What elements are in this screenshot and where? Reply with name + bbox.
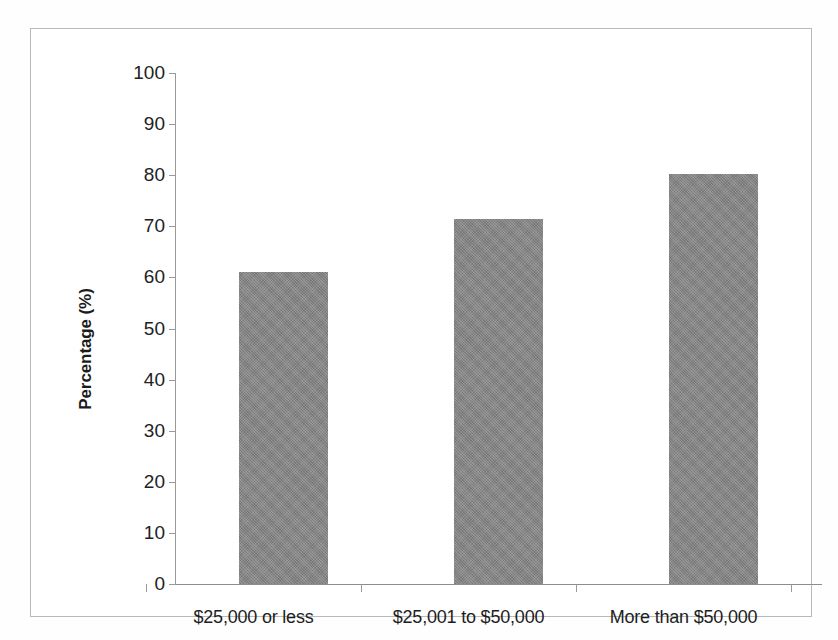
y-axis-tick-label: 60 <box>144 266 165 288</box>
y-axis-tick <box>169 73 176 74</box>
y-axis-tick-label: 90 <box>144 113 165 135</box>
y-axis-tick <box>169 175 176 176</box>
y-axis-tick-label: 10 <box>144 522 165 544</box>
y-axis-tick <box>169 482 176 483</box>
x-axis-category-label: $25,000 or less <box>146 607 361 628</box>
x-axis-line <box>176 584 822 585</box>
y-axis-tick-label: 70 <box>144 215 165 237</box>
y-axis-tick-label: 80 <box>144 164 165 186</box>
y-axis-title-container: Percentage (%) <box>73 209 99 489</box>
bar <box>454 219 543 584</box>
y-axis-title: Percentage (%) <box>73 209 99 489</box>
y-axis-tick <box>169 124 176 125</box>
plot-area: 1009080706050403020100 <box>176 73 821 584</box>
chart-frame: Percentage (%) 1009080706050403020100 $2… <box>30 28 812 617</box>
y-axis-tick <box>169 226 176 227</box>
bar <box>669 174 758 584</box>
y-axis-tick-label: 0 <box>154 573 165 595</box>
bar <box>239 272 328 584</box>
x-axis-category-label: More than $50,000 <box>576 607 791 628</box>
x-axis-category-label: $25,001 to $50,000 <box>361 607 576 628</box>
y-axis-tick-label: 40 <box>144 369 165 391</box>
y-axis-tick-label: 50 <box>144 318 165 340</box>
y-axis-tick <box>169 380 176 381</box>
x-axis-tick <box>146 584 147 592</box>
y-axis-tick-label: 20 <box>144 471 165 493</box>
figure-root: Percentage (%) 1009080706050403020100 $2… <box>0 0 838 640</box>
x-axis-tick <box>361 584 362 592</box>
y-axis-tick <box>169 329 176 330</box>
y-axis-tick <box>169 533 176 534</box>
y-axis-tick-label: 30 <box>144 420 165 442</box>
x-axis-tick <box>576 584 577 592</box>
x-axis-tick <box>791 584 792 592</box>
y-axis-tick <box>169 431 176 432</box>
y-axis-tick <box>169 277 176 278</box>
y-axis-tick <box>169 584 176 585</box>
y-axis-tick-label: 100 <box>133 62 165 84</box>
